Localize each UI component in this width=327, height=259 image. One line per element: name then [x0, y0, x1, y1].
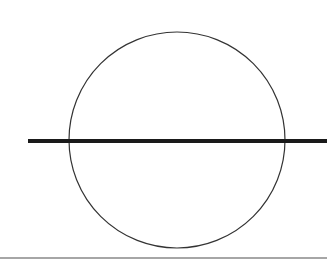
diagram-canvas: [0, 0, 327, 259]
diagram-svg: [0, 0, 327, 259]
